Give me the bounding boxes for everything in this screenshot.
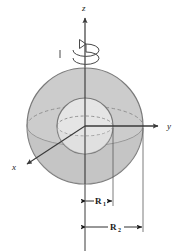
outer-radius-subscript: 2 [118, 227, 121, 233]
physics-diagram-svg: z [0, 0, 177, 251]
spin-arrow-icon [60, 40, 99, 65]
inner-radius-label: R [95, 196, 102, 206]
inner-radius-dimension: R 1 [86, 196, 112, 207]
outer-radius-label: R [110, 222, 117, 232]
z-axis-label: z [81, 3, 86, 13]
inner-radius-subscript: 1 [103, 201, 106, 207]
figure-container: z [0, 0, 177, 251]
outer-radius-dimension: R 2 [86, 222, 142, 233]
x-axis-label: x [11, 162, 16, 172]
y-axis-label: y [166, 121, 171, 131]
